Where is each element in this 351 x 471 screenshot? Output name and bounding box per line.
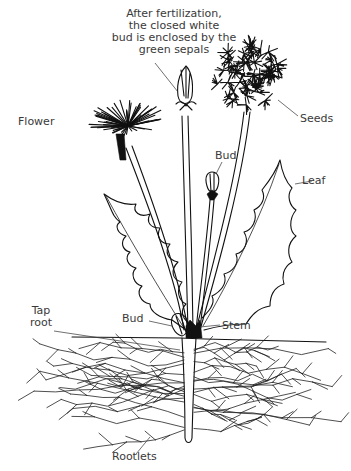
rootlet [194,343,275,370]
flower-stalk [126,146,188,330]
rootlet [194,405,272,430]
flower-head [89,100,161,160]
seed-pappus [258,94,272,110]
leaf-label: Leaf [302,175,325,187]
drawing [0,0,351,471]
right-leaf [202,160,296,330]
lower-bud [171,314,188,337]
closed-bud-stalk [182,116,193,330]
rootlets-label: Rootlets [112,451,157,463]
seeds-label: Seeds [300,113,333,125]
bud-upper-label: Bud [215,150,237,162]
closed-bud [178,66,193,104]
caption-label: After fertilization, the closed white bu… [96,8,252,56]
tap-root-label: Tap root [24,305,58,329]
flower-sepals [116,134,126,160]
flower-label: Flower [18,116,54,128]
rootlet [194,400,316,425]
leader-bud-lower [149,321,172,326]
leader-caption [155,63,178,92]
leader-seeds [278,100,298,116]
rootlet [78,367,184,402]
bud-lower-label: Bud [122,313,144,325]
rootlet [194,344,336,360]
tap-root-line-2: root [24,317,58,329]
rootlet [84,430,184,452]
base-crown [186,320,202,338]
rootlets [18,334,348,452]
rootlet [72,410,184,428]
upper-bud-sepals [207,190,218,200]
rootlet [194,369,305,385]
leader-bud-upper [216,162,222,174]
tap-root [182,338,196,443]
stem-label: Stem [222,320,251,332]
rootlet [194,392,295,420]
upper-bud [206,172,219,192]
dandelion-diagram: After fertilization, the closed white bu… [0,0,351,471]
rootlet [79,338,184,363]
caption-line-4: green sepals [96,44,252,56]
